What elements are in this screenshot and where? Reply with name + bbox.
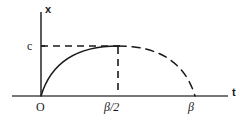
parabola-diagram: t x c O β/2 β xyxy=(0,0,250,121)
figure-container: t x c O β/2 β xyxy=(0,0,250,121)
horizontal-axis-label: t xyxy=(232,86,236,98)
origin-label: O xyxy=(36,100,45,114)
y-value-label-c: c xyxy=(27,39,32,53)
curve-solid-segment xyxy=(41,46,118,96)
x-tick-label-beta-half: β/2 xyxy=(103,100,119,114)
vertical-axis-label: x xyxy=(45,3,52,15)
curve-dashed-segment xyxy=(118,46,195,96)
x-tick-label-beta: β xyxy=(187,100,194,114)
